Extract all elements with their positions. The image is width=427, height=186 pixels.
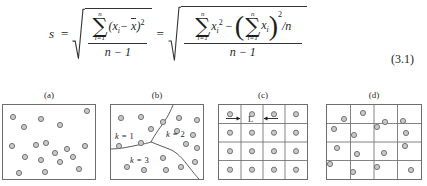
- equation-row: s = n ∑ i=1 (xi− x)2: [46, 6, 307, 62]
- arrow-head-left-icon: [264, 117, 268, 121]
- panel-caption-a: (a): [2, 90, 96, 100]
- parenthesized-sum: ( n ∑ i=1 xi ) 2: [235, 11, 282, 42]
- open-paren: (: [235, 16, 244, 36]
- left-fraction: n ∑ i=1 (xi− x)2 n − 1: [88, 11, 147, 60]
- equation-lhs-variable: s: [46, 26, 57, 42]
- summation-2-lower-limit: i=1: [198, 35, 208, 42]
- equation-relation-1: =: [57, 26, 72, 42]
- panel-caption-b: (b): [110, 90, 204, 100]
- equation-number: (3.1): [391, 52, 414, 67]
- panel-b-region-partition: k=1 k=2 k=3: [110, 104, 204, 180]
- left-fraction-denominator: n − 1: [102, 44, 134, 60]
- panel-d-gridlines: [327, 105, 421, 179]
- term-open-paren: (x: [108, 19, 117, 33]
- svg-text:k=2: k=2: [166, 129, 185, 139]
- k3-symbol: k: [130, 155, 134, 165]
- left-numerator-term: (xi− x)2: [108, 18, 144, 35]
- sigma-icon: ∑: [195, 18, 210, 35]
- x-squared-term: xi2: [211, 18, 223, 35]
- summation-3-lower-limit: i=1: [248, 35, 258, 42]
- minus-operator: −: [223, 19, 235, 34]
- close-paren: ): [269, 16, 278, 36]
- right-fraction-numerator: n ∑ i=1 xi2 − ( n ∑ i=1: [191, 11, 294, 43]
- x-subscript: i: [216, 26, 218, 35]
- paren-exponent: 2: [278, 10, 282, 19]
- radical-sign-left-icon: [72, 8, 85, 60]
- summation-1: n ∑ i=1: [91, 11, 108, 42]
- k2-value: 2: [181, 129, 185, 139]
- summation-2: n ∑ i=1: [194, 11, 211, 42]
- panel-c-regular-grid: L: [218, 104, 308, 180]
- term-minus: −: [120, 19, 131, 33]
- panel-a-canvas: [3, 105, 95, 179]
- right-fraction: n ∑ i=1 xi2 − ( n ∑ i=1: [184, 11, 302, 60]
- panel-c-L-label: L: [248, 114, 253, 124]
- summation-1-lower-limit: i=1: [95, 35, 105, 42]
- panel-d-points: [327, 110, 413, 174]
- k1-equals: =: [122, 131, 127, 141]
- panel-caption-d: (d): [326, 90, 422, 100]
- panel-a-random-distribution: [2, 104, 96, 180]
- x-bar-symbol: x: [131, 19, 136, 34]
- k1-symbol: k: [115, 131, 119, 141]
- panel-caption-c: (c): [218, 90, 308, 100]
- panel-a-points: [9, 108, 89, 175]
- svg-text:k=1: k=1: [115, 131, 134, 141]
- divided-by-n: /n: [282, 19, 291, 34]
- panel-c-canvas: L: [219, 105, 307, 179]
- panel-b-region-label-k2: k=2: [166, 129, 185, 139]
- equation-block: s = n ∑ i=1 (xi− x)2: [0, 0, 427, 84]
- left-radical: n ∑ i=1 (xi− x)2 n − 1: [72, 8, 152, 60]
- k3-value: 3: [145, 155, 149, 165]
- sigma-icon: ∑: [92, 18, 107, 35]
- summation-3: n ∑ i=1: [244, 11, 261, 42]
- right-fraction-denominator: n − 1: [227, 44, 259, 60]
- right-radical: n ∑ i=1 xi2 − ( n ∑ i=1: [168, 6, 307, 62]
- panel-d-canvas: [327, 105, 421, 179]
- sigma-icon: ∑: [245, 18, 260, 35]
- right-radicand: n ∑ i=1 xi2 − ( n ∑ i=1: [181, 6, 307, 62]
- left-fraction-numerator: n ∑ i=1 (xi− x)2: [88, 11, 147, 43]
- radical-sign-right-icon: [168, 6, 181, 62]
- panel-b-region-label-k3: k=3: [130, 155, 149, 165]
- inner-x-term: xi: [261, 18, 269, 34]
- left-radicand: n ∑ i=1 (xi− x)2 n − 1: [85, 8, 152, 60]
- k1-value: 1: [130, 131, 134, 141]
- k3-equals: =: [137, 155, 142, 165]
- panel-d-grid-random: [326, 104, 422, 180]
- arrow-head-right-icon: [237, 117, 241, 121]
- term-exponent: 2: [140, 18, 144, 27]
- panel-b-region-label-k1: k=1: [115, 131, 134, 141]
- svg-text:k=3: k=3: [130, 155, 149, 165]
- equation-relation-2: =: [152, 26, 167, 42]
- panel-b-canvas: k=1 k=2 k=3: [111, 105, 203, 179]
- k2-equals: =: [173, 129, 178, 139]
- panel-c-spacing-annotation: L: [226, 114, 278, 124]
- k2-symbol: k: [166, 129, 170, 139]
